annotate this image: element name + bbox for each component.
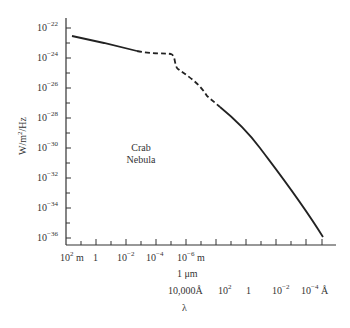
- svg-text:10−28: 10−28: [37, 110, 58, 123]
- svg-text:10−36: 10−36: [37, 230, 58, 243]
- spectrum-solid-low: [72, 36, 137, 51]
- svg-text:1: 1: [93, 252, 98, 263]
- svg-text:10−4: 10−4: [146, 250, 164, 263]
- svg-text:10−4 Å: 10−4 Å: [301, 283, 329, 296]
- svg-text:10−34: 10−34: [37, 200, 58, 213]
- annotation-nebula: Nebula: [127, 154, 156, 165]
- spectrum-solid-high: [220, 107, 323, 237]
- x-label-micron: 1 μm: [177, 268, 198, 279]
- svg-text:10−6 m: 10−6 m: [177, 250, 205, 263]
- y-tick-labels: 10−22 10−24 10−26 10−28 10−30 10−32 10−3…: [37, 20, 58, 243]
- svg-text:1: 1: [246, 285, 251, 296]
- svg-text:102: 102: [218, 283, 232, 296]
- x-axis-label: λ: [182, 302, 187, 313]
- svg-text:10−26: 10−26: [37, 80, 58, 93]
- svg-text:10−30: 10−30: [37, 140, 58, 153]
- svg-text:10,000Å: 10,000Å: [168, 285, 204, 296]
- svg-text:102 m: 102 m: [60, 250, 84, 263]
- svg-text:10−32: 10−32: [37, 170, 58, 183]
- x-ticks: [81, 239, 322, 245]
- x-tick-labels-angstrom: 10,000Å 102 1 10−2 10−4 Å: [168, 283, 329, 296]
- svg-text:10−22: 10−22: [37, 20, 58, 33]
- y-ticks: [66, 28, 71, 238]
- svg-text:10−24: 10−24: [37, 50, 58, 63]
- svg-text:10−2: 10−2: [272, 283, 290, 296]
- y-axis-label: W/m2/Hz: [16, 116, 28, 155]
- chart: 10−22 10−24 10−26 10−28 10−30 10−32 10−3…: [0, 0, 350, 328]
- spectrum-dashed: [137, 51, 220, 107]
- x-tick-labels-meters: 102 m 1 10−2 10−4 10−6 m: [60, 250, 205, 263]
- svg-text:10−2: 10−2: [117, 250, 135, 263]
- annotation-crab: Crab: [131, 142, 150, 153]
